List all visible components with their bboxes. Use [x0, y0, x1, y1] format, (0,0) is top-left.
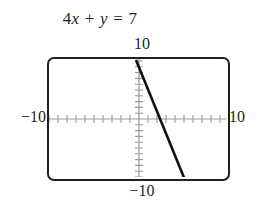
equation-variable-y: y — [100, 9, 108, 28]
x-axis-min-label: −10 — [4, 108, 46, 126]
x-axis — [48, 115, 227, 123]
equation-plus-operator: + — [79, 9, 100, 28]
equation-caption: 4x + y = 7 — [0, 8, 200, 30]
equation-coefficient: 4 — [63, 9, 72, 28]
graph-area: 10 −10 −10 10 — [0, 32, 277, 215]
x-axis-max-label: 10 — [229, 108, 273, 126]
plot-line-4x-plus-y-equals-7 — [136, 60, 185, 180]
equation-equals-operator: = — [108, 9, 129, 28]
y-axis-max-label: 10 — [97, 35, 187, 53]
equation-constant: 7 — [128, 9, 137, 28]
y-axis-min-label: −10 — [97, 182, 187, 200]
